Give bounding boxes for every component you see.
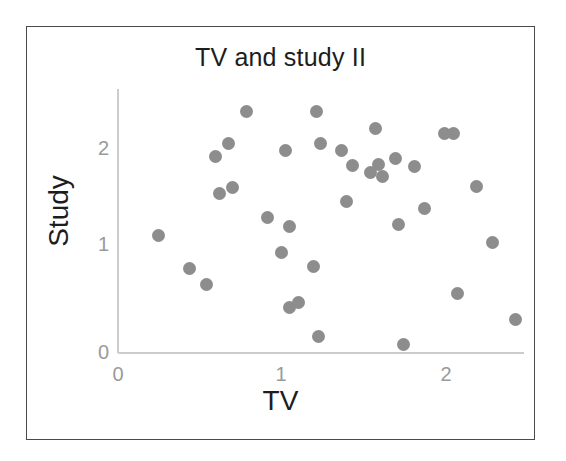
data-point xyxy=(314,137,327,150)
data-point xyxy=(283,220,296,233)
data-point xyxy=(389,152,402,165)
data-point xyxy=(226,181,239,194)
x-axis-title: TV xyxy=(27,385,534,417)
data-point xyxy=(307,260,320,273)
y-tick-label-2: 2 xyxy=(83,137,109,160)
data-point xyxy=(397,338,410,351)
y-tick-label-1: 1 xyxy=(83,233,109,256)
data-point xyxy=(509,313,522,326)
data-point xyxy=(418,202,431,215)
data-point xyxy=(209,150,222,163)
data-point xyxy=(451,287,464,300)
data-point xyxy=(376,170,389,183)
data-point xyxy=(335,144,348,157)
data-point xyxy=(213,187,226,200)
data-point xyxy=(392,218,405,231)
data-point xyxy=(279,144,292,157)
data-point xyxy=(275,246,288,259)
data-point xyxy=(408,160,421,173)
y-tick-label-0: 0 xyxy=(83,341,109,364)
y-axis-title: Study xyxy=(43,151,75,271)
data-point xyxy=(340,195,353,208)
x-tick-label-1: 1 xyxy=(266,363,296,386)
x-tick-label-2: 2 xyxy=(431,363,461,386)
data-point xyxy=(200,278,213,291)
data-point xyxy=(292,296,305,309)
data-point xyxy=(240,105,253,118)
data-point xyxy=(346,159,359,172)
data-point xyxy=(183,262,196,275)
figure-frame: TV and study II 2 1 0 0 1 2 Study TV xyxy=(26,26,535,440)
scatter-plot: TV and study II 2 1 0 0 1 2 Study TV xyxy=(27,27,534,439)
x-tick-label-0: 0 xyxy=(103,363,133,386)
